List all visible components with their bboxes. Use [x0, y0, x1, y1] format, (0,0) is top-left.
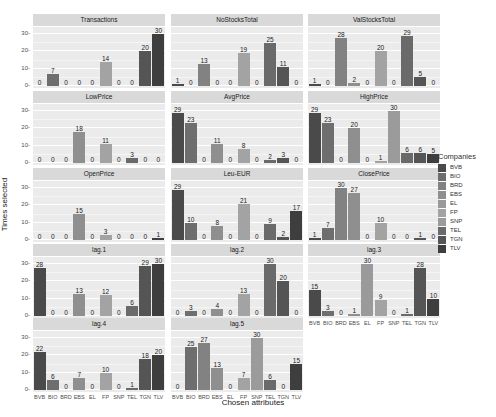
facet-title: Transactions [33, 14, 165, 26]
bar-value-label: 30 [357, 257, 377, 264]
legend-label: TLV [450, 244, 461, 253]
y-tick-label: 10- [14, 65, 30, 71]
plot-area: 29100802109217 [171, 181, 303, 242]
bar-value-label: 19 [234, 46, 254, 53]
legend-label: EBS [450, 190, 462, 199]
facet-panel: HighPrice29230200130665 [308, 91, 440, 165]
bar-value-label: 20 [148, 348, 168, 355]
legend-item-snp: SNP [438, 217, 476, 226]
y-tick-label: 0- [14, 159, 30, 165]
facet-panel: LowPrice0001801103000-10-20-30- [33, 91, 165, 165]
bar-value-label: 29 [305, 106, 325, 113]
legend-item-fp: FP [438, 208, 476, 217]
bar-value-label: 20 [371, 44, 391, 51]
facet-title: lag.4 [33, 318, 165, 330]
bar-value-label: 8 [234, 142, 254, 149]
y-tick-label: 30- [14, 334, 30, 340]
plot-area: 1730270100010 [308, 181, 440, 242]
y-tick-label: 10- [14, 219, 30, 225]
facet-panel: OpenPrice000150300010-10-20-30- [33, 168, 165, 242]
y-tick-label: 0- [14, 386, 30, 392]
facet-panel: NoStocksTotal10130019025110 [171, 14, 303, 88]
bar-tel [264, 264, 276, 316]
legend-title: Companies [438, 152, 476, 161]
legend-item-tgn: TGN [438, 235, 476, 244]
bar-tel [264, 160, 276, 163]
bar-value-label: 15 [69, 207, 89, 214]
y-axis-label: Times selected [0, 178, 9, 232]
plot-area: 2923011080230 [171, 104, 303, 165]
bar-value-label: 9 [371, 293, 391, 300]
facet-title: lag.2 [171, 244, 303, 256]
bar-bvb [34, 352, 46, 390]
bar-value-label: 6 [260, 373, 280, 380]
bar-tlv [152, 264, 164, 316]
bar-value-label: 5 [410, 70, 430, 77]
bar-value-label: 15 [286, 357, 306, 364]
facet-panel: lag.4226070100118200-10-20-30-BVBBIOBRDE… [33, 318, 165, 392]
bar-snp [388, 111, 400, 163]
bar-value-label: 20 [344, 121, 364, 128]
facet-title: lag.5 [171, 318, 303, 330]
legend-item-bvb: BVB [438, 163, 476, 172]
bar-value-label: 0 [286, 156, 306, 163]
bar-value-label: 0 [286, 79, 306, 86]
legend-item-tel: TEL [438, 226, 476, 235]
facet-panel: Leu-EUR29100802109217 [171, 168, 303, 242]
y-tick-label: 20- [14, 351, 30, 357]
facet-title: ClosePrice [308, 168, 440, 180]
legend-label: EL [450, 199, 457, 208]
bar-value-label: 27 [194, 336, 214, 343]
bar-el [361, 264, 373, 316]
legend-item-bio: BIO [438, 172, 476, 181]
bar-ebs [348, 314, 360, 316]
bar-value-label: 28 [410, 261, 430, 268]
bar-tlv [427, 299, 439, 316]
legend-label: TGN [450, 235, 463, 244]
bar-value-label: 8 [207, 219, 227, 226]
facet-panel: Transactions07000140020300-10-20-30- [33, 14, 165, 88]
bar-value-label: 25 [260, 36, 280, 43]
facet-title: OpenPrice [33, 168, 165, 180]
bar-tlv [152, 238, 164, 240]
legend-color-swatch [438, 236, 446, 244]
plot-area: 10130019025110 [171, 27, 303, 88]
bar-bvb [309, 238, 321, 240]
legend-color-swatch [438, 227, 446, 235]
bar-value-label: 11 [96, 137, 116, 144]
bar-value-label: 1 [148, 231, 168, 238]
legend-label: BIO [450, 172, 460, 181]
legend-color-swatch [438, 182, 446, 190]
bar-value-label: 23 [318, 116, 338, 123]
facet-title: AvgPrice [171, 91, 303, 103]
bar-value-label: 13 [207, 361, 227, 368]
bar-tel [126, 388, 138, 390]
bar-value-label: 30 [148, 257, 168, 264]
facet-title: Leu-EUR [171, 168, 303, 180]
plot-area: 280013012062930 [33, 257, 165, 318]
plot-area: 0700014002030 [33, 27, 165, 88]
bar-tgn [139, 266, 151, 316]
y-tick-label: 10- [14, 369, 30, 375]
bar-value-label: 7 [43, 67, 63, 74]
bar-value-label: 13 [234, 287, 254, 294]
facet-title: ValStocksTotal [308, 14, 440, 26]
legend-item-brd: BRD [438, 181, 476, 190]
legend-color-swatch [438, 245, 446, 253]
bar-value-label: 7 [69, 371, 89, 378]
legend-label: BVB [450, 163, 462, 172]
bar-value-label: 10 [371, 216, 391, 223]
bar-value-label: 28 [331, 31, 351, 38]
legend-label: BRD [450, 181, 463, 190]
legend-label: SNP [450, 217, 462, 226]
legend-item-ebs: EBS [438, 190, 476, 199]
y-tick-label: 20- [14, 47, 30, 53]
bar-value-label: 11 [207, 137, 227, 144]
bar-value-label: 30 [148, 27, 168, 34]
plot-area: 000180110300 [33, 104, 165, 165]
facet-panel: lag.12800130120629300-10-20-30- [33, 244, 165, 318]
facet-title: lag.1 [33, 244, 165, 256]
facet-panel: ValStocksTotal1028202002950 [308, 14, 440, 88]
y-tick-label: 0- [14, 236, 30, 242]
bar-value-label: 20 [273, 274, 293, 281]
